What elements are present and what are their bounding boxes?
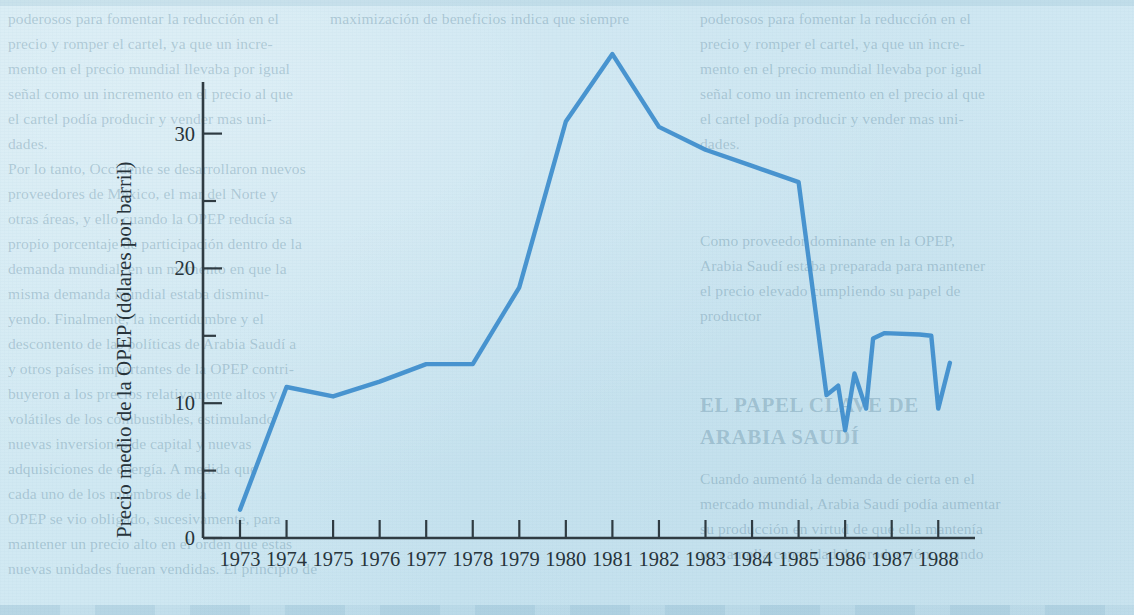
x-axis-ticks: 1973197419751976197719781979198019811982… [220,520,959,570]
y-axis-ticks: 0102030 [175,123,223,549]
x-tick-label: 1986 [825,548,866,570]
x-tick-label: 1985 [778,548,819,570]
x-tick-label: 1981 [592,548,633,570]
x-tick-label: 1987 [871,548,912,570]
x-tick-label: 1974 [266,548,307,570]
y-tick-label: 20 [175,257,196,279]
chart-svg: Precio medio de la OPEP (dólares por bar… [0,0,1134,615]
x-tick-label: 1978 [452,548,493,570]
x-tick-label: 1973 [220,548,261,570]
x-tick-label: 1976 [359,548,400,570]
y-tick-label: 0 [185,527,195,549]
x-tick-label: 1980 [545,548,586,570]
price-series-line [240,54,950,510]
line-chart-figure: Precio medio de la OPEP (dólares por bar… [0,0,1134,615]
x-tick-label: 1977 [406,548,447,570]
x-tick-label: 1988 [918,548,959,570]
x-tick-label: 1979 [499,548,540,570]
y-axis-title: Precio medio de la OPEP (dólares por bar… [112,161,136,538]
x-tick-label: 1983 [685,548,726,570]
y-tick-label: 10 [175,392,196,414]
y-tick-label: 30 [175,123,196,145]
x-tick-label: 1982 [638,548,679,570]
x-tick-label: 1975 [313,548,354,570]
x-tick-label: 1984 [732,548,773,570]
